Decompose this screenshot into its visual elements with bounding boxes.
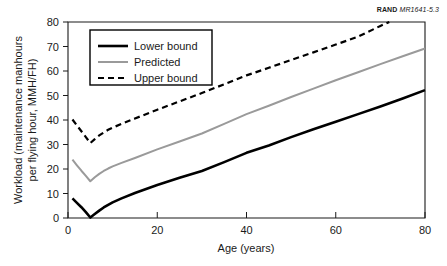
- y-tick-label: 80: [47, 16, 59, 28]
- series-line-lower-bound: [72, 90, 425, 217]
- x-tick-label: 80: [419, 224, 431, 236]
- y-tick-label: 30: [47, 139, 59, 151]
- y-tick-label: 60: [47, 65, 59, 77]
- legend-label-predicted: Predicted: [134, 56, 180, 68]
- source-tag-org: RAND: [377, 6, 398, 13]
- source-tag: RAND MR1641-5.3: [377, 6, 439, 13]
- x-tick-label: 60: [330, 224, 342, 236]
- chart-legend: Lower boundPredictedUpper bound: [90, 30, 212, 85]
- x-tick-label: 0: [65, 224, 71, 236]
- y-tick-label: 50: [47, 90, 59, 102]
- y-tick-label: 10: [47, 188, 59, 200]
- x-tick-label: 20: [151, 224, 163, 236]
- y-axis-title-line1: Workload (maintenance manhours: [12, 36, 24, 204]
- line-chart-plot: 01020304050607080 020406080 Workload (ma…: [0, 0, 447, 266]
- legend-label-lower-bound: Lower bound: [134, 40, 198, 52]
- y-axis-title-line2: per flying hour, MMH/FH): [26, 59, 38, 182]
- y-axis-title: Workload (maintenance manhours per flyin…: [12, 36, 38, 204]
- source-tag-id: MR1641-5.3: [399, 6, 439, 13]
- x-axis-title: Age (years): [218, 242, 275, 254]
- x-tick-label: 40: [240, 224, 252, 236]
- chart-figure: RAND MR1641-5.3 01020304050607080 020406…: [0, 0, 447, 266]
- y-tick-label: 40: [47, 114, 59, 126]
- y-tick-label: 0: [53, 212, 59, 224]
- y-axis-ticks: 01020304050607080: [47, 16, 68, 224]
- y-tick-label: 20: [47, 163, 59, 175]
- x-axis-ticks: 020406080: [65, 212, 431, 236]
- y-tick-label: 70: [47, 41, 59, 53]
- legend-label-upper-bound: Upper bound: [134, 72, 198, 84]
